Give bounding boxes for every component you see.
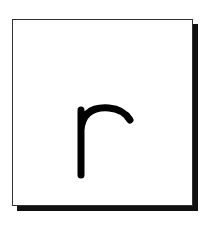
letter-card	[12, 19, 193, 206]
letter-r-glyph	[13, 20, 192, 205]
